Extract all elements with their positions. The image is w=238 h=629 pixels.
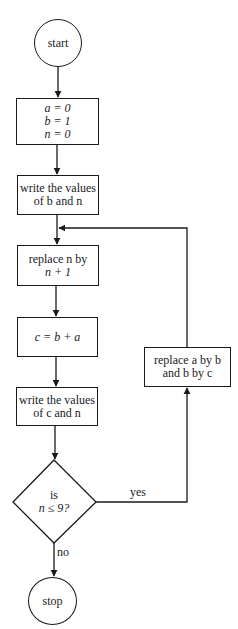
decision-text: is n ≤ 9? bbox=[24, 489, 84, 515]
init-box: a = 0 b = 1 n = 0 bbox=[16, 98, 99, 145]
init-line-n: n = 0 bbox=[44, 128, 70, 141]
decision-line-2: n ≤ 9? bbox=[24, 502, 84, 515]
write-c-n-line-1: write the values bbox=[19, 394, 95, 407]
start-label: start bbox=[48, 37, 69, 50]
increment-line-1: replace n by bbox=[29, 253, 88, 266]
write-b-n-box: write the values of b and n bbox=[17, 175, 99, 215]
connector-layer bbox=[0, 0, 238, 629]
write-c-n-line-2: of c and n bbox=[33, 407, 81, 420]
no-label: no bbox=[57, 546, 69, 559]
compute-c-box: c = b + a bbox=[17, 317, 98, 357]
start-node: start bbox=[34, 19, 82, 67]
increment-line-2: n + 1 bbox=[45, 266, 71, 279]
write-b-n-line-2: of b and n bbox=[34, 195, 82, 208]
write-c-n-box: write the values of c and n bbox=[16, 387, 98, 426]
shift-line-2: and b by c bbox=[163, 367, 213, 380]
yes-label: yes bbox=[130, 486, 146, 499]
shift-box: replace a by b and b by c bbox=[144, 347, 231, 387]
stop-label: stop bbox=[42, 595, 62, 608]
compute-c-line: c = b + a bbox=[35, 331, 81, 344]
increment-n-box: replace n by n + 1 bbox=[17, 245, 99, 286]
stop-node: stop bbox=[28, 577, 77, 625]
